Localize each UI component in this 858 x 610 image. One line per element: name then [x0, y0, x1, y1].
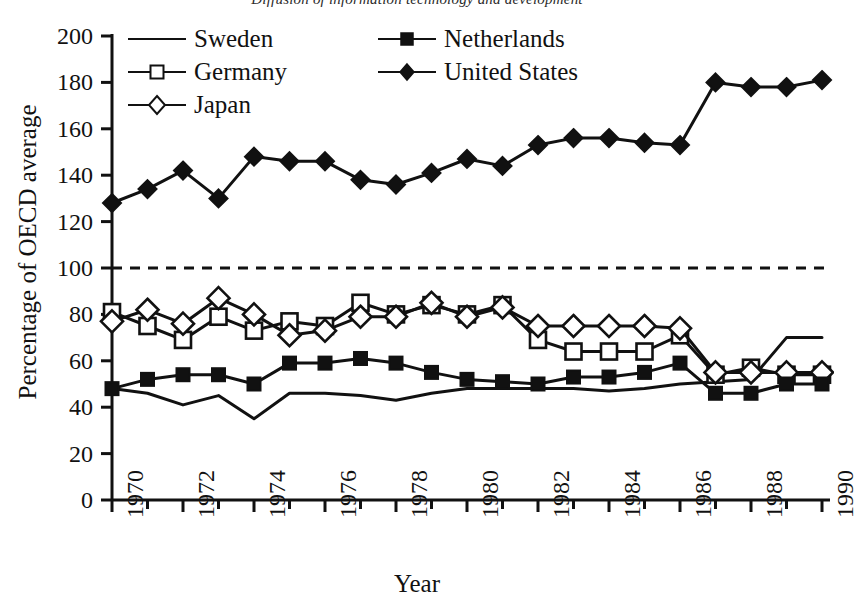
data-point-marker — [529, 136, 547, 154]
legend-row: Japan — [128, 88, 578, 121]
x-axis-tick-label: 1986 — [691, 470, 715, 518]
y-axis-tick-label: 160 — [33, 117, 93, 141]
data-point-marker — [248, 378, 261, 391]
data-point-marker — [598, 315, 620, 337]
data-point-marker — [177, 368, 190, 381]
series-japan — [101, 287, 833, 383]
data-point-marker — [603, 371, 616, 384]
legend-item-sweden[interactable]: Sweden — [128, 25, 378, 53]
data-point-marker — [638, 366, 651, 379]
x-axis-tick-label: 1976 — [336, 470, 360, 518]
y-axis-tick-label: 80 — [33, 302, 93, 326]
legend-item-netherlands[interactable]: Netherlands — [378, 25, 565, 53]
data-point-marker — [458, 150, 476, 168]
chart-title: Diffusion of information technology and … — [0, 0, 834, 8]
data-point-marker — [352, 171, 370, 189]
japan-open-diamond-swatch-icon — [128, 94, 186, 116]
united-states-filled-diamond-swatch-icon — [378, 61, 436, 83]
data-point-marker — [601, 344, 617, 360]
data-point-marker — [813, 71, 831, 89]
x-axis-tick-label: 1982 — [549, 470, 573, 518]
data-point-marker — [319, 357, 332, 370]
x-axis-label: Year — [0, 570, 834, 598]
data-point-marker — [636, 134, 654, 152]
y-axis-tick-label: 40 — [33, 395, 93, 419]
legend-label: Sweden — [194, 25, 273, 53]
x-axis-tick-label: 1970 — [123, 470, 147, 518]
chart-legend: Sweden Netherlands Germany — [128, 22, 578, 121]
data-point-marker — [103, 194, 121, 212]
legend-row: Germany United States — [128, 55, 578, 88]
y-axis-tick-label: 100 — [33, 256, 93, 280]
data-point-marker — [281, 152, 299, 170]
legend-item-united-states[interactable]: United States — [378, 58, 578, 86]
data-point-marker — [565, 129, 583, 147]
data-point-marker — [387, 175, 405, 193]
data-point-marker — [106, 382, 119, 395]
data-point-marker — [567, 371, 580, 384]
legend-label: Germany — [194, 58, 287, 86]
data-point-marker — [742, 78, 760, 96]
x-axis-tick-label: 1980 — [478, 470, 502, 518]
data-point-marker — [390, 357, 403, 370]
y-axis-tick-label: 60 — [33, 349, 93, 373]
data-point-marker — [707, 73, 725, 91]
x-axis-tick-label: 1990 — [833, 470, 857, 518]
netherlands-filled-square-swatch-icon — [378, 28, 436, 50]
data-point-marker — [674, 357, 687, 370]
legend-item-japan[interactable]: Japan — [128, 91, 378, 119]
legend-label: Netherlands — [444, 25, 565, 53]
data-point-marker — [354, 352, 367, 365]
data-point-marker — [208, 287, 230, 309]
data-point-marker — [778, 78, 796, 96]
y-axis-tick-label: 120 — [33, 210, 93, 234]
data-point-marker — [423, 164, 441, 182]
y-axis-tick-label: 180 — [33, 70, 93, 94]
x-axis-tick-label: 1984 — [620, 470, 644, 518]
data-point-marker — [600, 129, 618, 147]
legend-row: Sweden Netherlands — [128, 22, 578, 55]
data-point-marker — [671, 136, 689, 154]
data-point-marker — [141, 373, 154, 386]
data-point-marker — [211, 309, 227, 325]
data-point-marker — [139, 180, 157, 198]
germany-open-square-swatch-icon — [128, 61, 186, 83]
y-axis-tick-label: 20 — [33, 442, 93, 466]
x-axis-tick-label: 1972 — [194, 470, 218, 518]
data-point-marker — [566, 344, 582, 360]
data-point-marker — [532, 378, 545, 391]
data-point-marker — [212, 368, 225, 381]
data-point-marker — [283, 357, 296, 370]
x-axis-tick-label: 1988 — [762, 470, 786, 518]
data-point-marker — [745, 387, 758, 400]
data-point-marker — [425, 366, 438, 379]
y-axis-tick-label: 0 — [33, 488, 93, 512]
data-point-marker — [816, 378, 829, 391]
data-point-marker — [634, 315, 656, 337]
data-point-marker — [637, 344, 653, 360]
data-point-marker — [709, 387, 722, 400]
data-point-marker — [316, 152, 334, 170]
data-point-marker — [494, 157, 512, 175]
data-point-marker — [496, 375, 509, 388]
x-axis-tick-label: 1978 — [407, 470, 431, 518]
legend-item-germany[interactable]: Germany — [128, 58, 378, 86]
data-point-marker — [461, 373, 474, 386]
data-point-marker — [780, 378, 793, 391]
legend-label: United States — [444, 58, 578, 86]
x-axis-tick-label: 1974 — [265, 470, 289, 518]
y-axis-tick-label: 200 — [33, 24, 93, 48]
sweden-line-swatch-icon — [128, 28, 186, 50]
data-point-marker — [563, 315, 585, 337]
y-axis-tick-label: 140 — [33, 163, 93, 187]
legend-label: Japan — [194, 91, 251, 119]
